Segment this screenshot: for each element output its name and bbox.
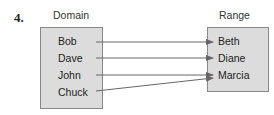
arrow-chuck-marcia [96, 78, 213, 91]
mapping-arrows [0, 0, 274, 115]
